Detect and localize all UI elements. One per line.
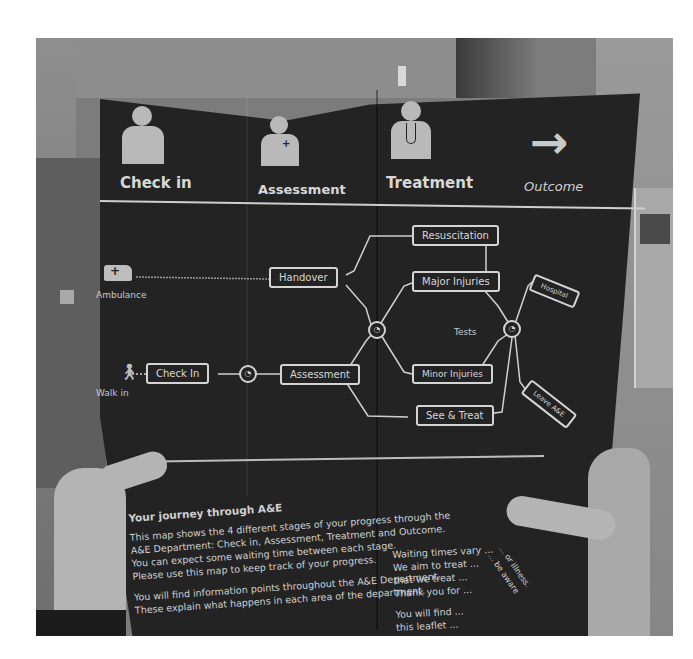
ambulance-icon: +: [104, 265, 132, 281]
clock-icon: ◔: [503, 320, 521, 338]
waiting-text-block: Waiting times vary ... We aim to treat .…: [392, 543, 498, 634]
node-handover: Handover: [269, 267, 338, 288]
label-tests: Tests: [454, 327, 476, 337]
photo: + → Check in Assessment Treatment Outcom…: [36, 38, 673, 636]
clock-icon: ◔: [368, 321, 386, 339]
entry-walk-in: Walk in: [96, 388, 129, 398]
node-see-and-treat: See & Treat: [416, 405, 494, 426]
right-hand: [588, 448, 650, 636]
node-assessment: Assessment: [280, 364, 360, 385]
entry-ambulance: Ambulance: [96, 290, 147, 300]
node-check-in: Check In: [146, 363, 209, 384]
sleeve: [36, 610, 126, 636]
node-resuscitation: Resuscitation: [412, 225, 499, 246]
clock-icon: ◔: [239, 365, 257, 383]
node-major-injuries: Major Injuries: [412, 271, 500, 292]
node-minor-injuries: Minor Injuries: [412, 364, 493, 384]
walking-person-icon: 🚶︎: [119, 362, 139, 381]
